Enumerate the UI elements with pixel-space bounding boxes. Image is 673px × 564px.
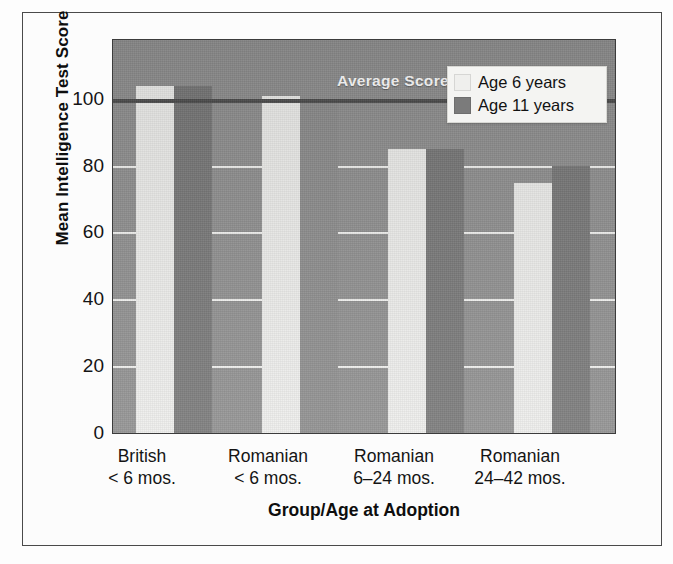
figure-canvas: Average Score Age 6 years Age 11 years 1… bbox=[0, 0, 673, 564]
legend: Age 6 years Age 11 years bbox=[447, 66, 607, 123]
y-tick-40: 40 bbox=[60, 288, 104, 310]
legend-label-age6: Age 6 years bbox=[478, 73, 566, 92]
bar-group4-age6 bbox=[514, 183, 552, 433]
legend-item-age6: Age 6 years bbox=[454, 71, 599, 94]
bar-group2-age11 bbox=[300, 99, 338, 433]
y-tick-0: 0 bbox=[60, 422, 104, 444]
bar-group1-age11 bbox=[174, 86, 212, 433]
bar-group2-age6 bbox=[262, 96, 300, 433]
bar-group1-age6 bbox=[136, 86, 174, 433]
legend-label-age11: Age 11 years bbox=[478, 96, 574, 115]
bar-group4-age11 bbox=[552, 166, 590, 433]
legend-swatch-icon-age6 bbox=[454, 74, 471, 91]
y-axis-label: Mean Intelligence Test Score bbox=[53, 3, 73, 253]
x-tick-group4-line1: Romanian bbox=[440, 446, 600, 468]
legend-item-age11: Age 11 years bbox=[454, 94, 599, 117]
bar-group3-age11 bbox=[426, 149, 464, 433]
x-tick-group4-line2: 24–42 mos. bbox=[440, 468, 600, 490]
average-score-label: Average Score bbox=[337, 72, 449, 90]
x-tick-group4: Romanian 24–42 mos. bbox=[440, 446, 600, 490]
x-axis-label: Group/Age at Adoption bbox=[112, 500, 616, 521]
y-tick-20: 20 bbox=[60, 355, 104, 377]
bar-group3-age6 bbox=[388, 149, 426, 433]
legend-swatch-icon-age11 bbox=[454, 97, 471, 114]
